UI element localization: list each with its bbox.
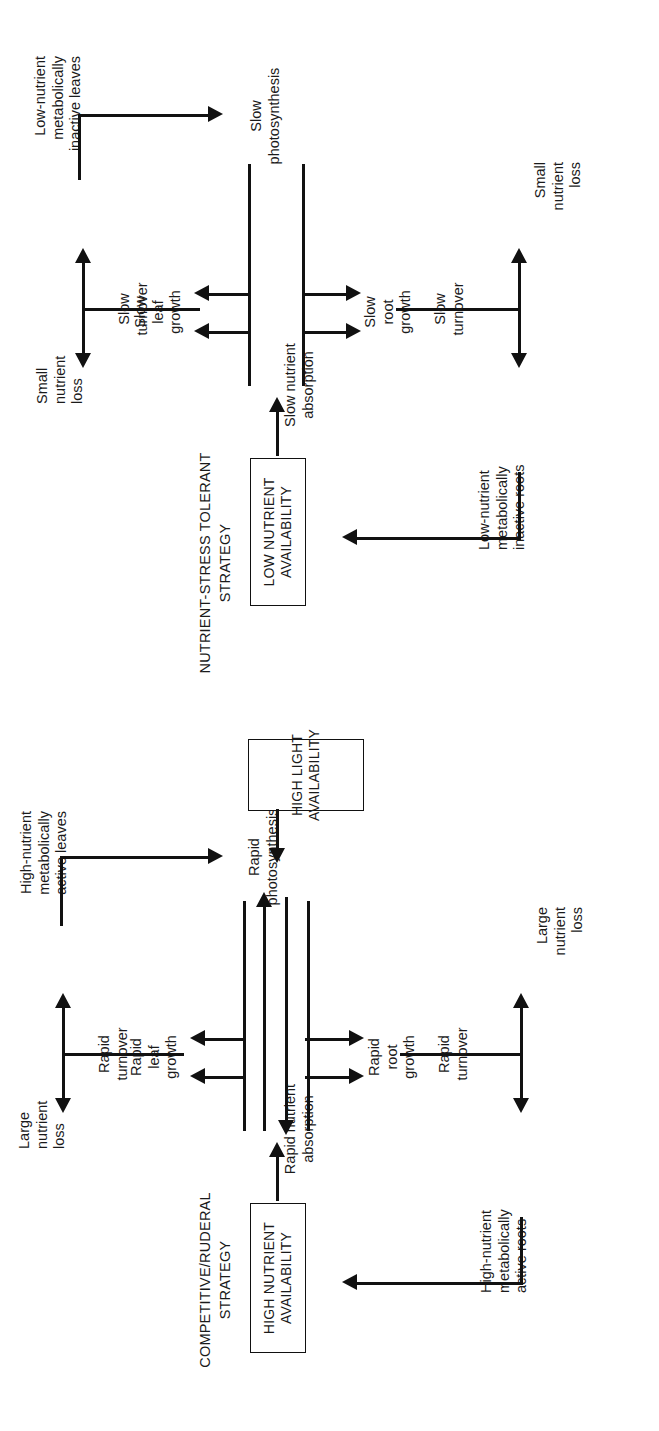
edge-light-to-photosynthesis: [276, 809, 279, 853]
env-box-low-nutrient-availability: LOW NUTRIENT AVAILABILITY: [250, 458, 306, 606]
branch-root-to-inactive-roots: [518, 308, 521, 356]
arrowhead-root-nutrient-loss-icon: [513, 993, 529, 1008]
edge-label-rapid-root-turnover: Rapid turnover: [436, 1009, 471, 1099]
rail-absorption-photosynthesis-upper: [248, 164, 251, 386]
riser-to-slow-leaf-growth-a: [204, 331, 250, 334]
node-rapid-root-growth: Rapid root growth: [366, 989, 419, 1125]
edge-roots-to-absorption-h: [520, 1217, 523, 1285]
arrowhead-root-growth-b-icon: [349, 1030, 364, 1046]
arrowhead-leaf-growth-b-icon: [194, 285, 209, 301]
arrowhead-photosynthesis-to-absorption-icon: [278, 1120, 294, 1135]
riser-to-rapid-leaf-growth-b: [200, 1038, 246, 1041]
panel-title: NUTRIENT-STRESS TOLERANT STRATEGY: [196, 418, 235, 708]
arrowhead-leaves-to-photosynthesis-icon: [208, 848, 223, 864]
rail-absorption-to-photosynthesis-out: [263, 903, 266, 1131]
rail-photosynthesis-to-absorption-back: [285, 897, 288, 1125]
arrowhead-root-nutrient-loss-icon: [511, 248, 527, 263]
dropper-to-rapid-root-growth-a: [305, 1076, 351, 1079]
rail-absorption-to-photosynthesis-upper: [243, 901, 246, 1131]
arrowhead-root-growth-a-icon: [349, 1068, 364, 1084]
env-box-high-nutrient-availability: HIGH NUTRIENT AVAILABILITY: [250, 1203, 306, 1353]
arrowhead-root-growth-b-icon: [346, 285, 361, 301]
arrowhead-leaf-growth-b-icon: [190, 1030, 205, 1046]
edge-nutrient-to-absorption: [276, 1155, 279, 1201]
branch-leaf-to-active-leaves: [62, 1006, 65, 1054]
dropper-to-slow-root-growth-b: [302, 293, 348, 296]
node-slow-root-growth: Slow root growth: [362, 244, 415, 380]
edge-leaves-to-photosynthesis-h: [60, 856, 63, 926]
arrowhead-roots-to-absorption-icon: [342, 1274, 357, 1290]
riser-to-rapid-leaf-growth-a: [200, 1076, 246, 1079]
arrowhead-light-to-photosynthesis-icon: [269, 848, 285, 863]
branch-root-to-small-nutrient-loss: [518, 261, 521, 309]
node-slow-photosynthesis: Slow photosynthesis: [248, 50, 283, 182]
branch-leaf-to-inactive-leaves: [82, 261, 85, 309]
branch-root-to-active-roots: [520, 1053, 523, 1101]
arrowhead-root-growth-a-icon: [346, 323, 361, 339]
node-root-small-nutrient-loss: Small nutrient loss: [532, 162, 585, 258]
edge-leaves-to-photosynthesis-v: [60, 856, 210, 859]
arrowhead-leaves-to-photosynthesis-icon: [208, 106, 223, 122]
figure-canvas: COMPETITIVE/RUDERAL STRATEGY HIGH NUTRIE…: [0, 0, 659, 1431]
node-rapid-leaf-growth: Rapid leaf growth: [128, 989, 181, 1125]
arrowhead-roots-to-absorption-icon: [342, 529, 357, 545]
arrowhead-to-active-roots-icon: [513, 1098, 529, 1113]
arrowhead-to-inactive-roots-icon: [511, 353, 527, 368]
edge-label-rapid-leaf-turnover: Rapid turnover: [96, 1009, 131, 1099]
panel-competitive-ruderal: COMPETITIVE/RUDERAL STRATEGY HIGH NUTRIE…: [0, 715, 659, 1431]
riser-to-slow-leaf-growth-b: [204, 293, 250, 296]
edge-nutrient-to-absorption: [276, 410, 279, 456]
node-leaf-large-nutrient-loss: Large nutrient loss: [16, 1055, 69, 1149]
edge-roots-to-absorption-v: [352, 537, 520, 540]
arrowhead-leaf-growth-a-icon: [194, 323, 209, 339]
branch-root-to-large-nutrient-loss: [520, 1006, 523, 1054]
env-box-high-light-availability: HIGH LIGHT AVAILABILITY: [248, 739, 364, 811]
node-slow-nutrient-absorption: Slow nutrient absorption: [282, 306, 317, 464]
edge-label-slow-root-turnover: Slow turnover: [432, 264, 467, 354]
edge-leaves-to-photosynthesis-v: [78, 114, 210, 117]
node-low-nutrient-inactive-roots: Low-nutrient metabolically inactive root…: [476, 370, 529, 550]
arrowhead-leaf-growth-a-icon: [190, 1068, 205, 1084]
node-high-nutrient-active-roots: High-nutrient metabolically active roots: [478, 1115, 531, 1293]
node-high-nutrient-active-leaves: High-nutrient metabolically active leave…: [18, 811, 71, 1001]
dropper-to-slow-root-growth-a: [302, 331, 348, 334]
dropper-to-rapid-root-growth-b: [305, 1038, 351, 1041]
panel-title: COMPETITIVE/RUDERAL STRATEGY: [196, 1145, 235, 1415]
panel-nutrient-stress-tolerant: NUTRIENT-STRESS TOLERANT STRATEGY LOW NU…: [0, 0, 659, 716]
rail-absorption-to-photosynthesis-lower: [307, 901, 310, 1131]
node-leaf-small-nutrient-loss: Small nutrient loss: [34, 310, 87, 404]
edge-leaves-to-photosynthesis-h: [78, 114, 81, 180]
node-root-large-nutrient-loss: Large nutrient loss: [534, 907, 587, 1003]
rail-absorption-photosynthesis-lower: [302, 164, 305, 386]
edge-roots-to-absorption-h: [518, 472, 521, 540]
edge-roots-to-absorption-v: [352, 1282, 522, 1285]
edge-label-slow-leaf-turnover: Slow turnover: [116, 264, 151, 354]
